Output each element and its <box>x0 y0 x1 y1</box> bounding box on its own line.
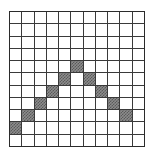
grid-cell-empty <box>132 36 144 48</box>
grid-cell-empty <box>83 12 95 24</box>
grid-cell-shaded <box>120 110 132 122</box>
grid-row <box>10 97 145 109</box>
grid-cell-empty <box>108 12 120 24</box>
grid-cell-empty <box>120 85 132 97</box>
grid-cell-empty <box>108 36 120 48</box>
grid-cell-empty <box>71 134 83 146</box>
grid-cell-empty <box>83 134 95 146</box>
grid-cell-empty <box>10 12 22 24</box>
grid-row <box>10 122 145 134</box>
grid-cell-empty <box>34 24 46 36</box>
grid-cell-empty <box>46 97 58 109</box>
grid-cell-empty <box>132 122 144 134</box>
grid-cell-empty <box>132 48 144 60</box>
grid-cell-empty <box>46 61 58 73</box>
grid-cell-empty <box>10 24 22 36</box>
grid-cell-empty <box>83 85 95 97</box>
grid-cell-empty <box>120 61 132 73</box>
grid-cell-empty <box>95 12 107 24</box>
grid-cell-empty <box>71 12 83 24</box>
grid-cell-empty <box>120 12 132 24</box>
grid-cell-empty <box>120 134 132 146</box>
grid-cell-empty <box>22 73 34 85</box>
grid-cell-empty <box>59 12 71 24</box>
grid-cell-empty <box>59 48 71 60</box>
grid-cell-empty <box>83 48 95 60</box>
grid-cell-shaded <box>83 73 95 85</box>
grid-cell-empty <box>120 73 132 85</box>
grid-cell-empty <box>34 36 46 48</box>
grid-row <box>10 85 145 97</box>
grid-row <box>10 61 145 73</box>
grid-cell-empty <box>10 73 22 85</box>
grid-cell-empty <box>46 110 58 122</box>
grid-cell-empty <box>46 48 58 60</box>
grid-cell-empty <box>95 134 107 146</box>
grid-cell-empty <box>59 110 71 122</box>
grid-cell-empty <box>95 61 107 73</box>
grid-cell-shaded <box>108 97 120 109</box>
grid-cell-empty <box>10 61 22 73</box>
grid-cell-empty <box>46 73 58 85</box>
grid-cell-empty <box>10 36 22 48</box>
grid-row <box>10 48 145 60</box>
grid-cell-empty <box>22 24 34 36</box>
grid-cell-empty <box>132 73 144 85</box>
grid-cell-empty <box>71 73 83 85</box>
grid-cell-empty <box>95 73 107 85</box>
grid-cell-empty <box>95 36 107 48</box>
grid-cell-shaded <box>95 85 107 97</box>
grid-cell-empty <box>71 24 83 36</box>
grid-cell-empty <box>34 122 46 134</box>
grid-cell-empty <box>71 110 83 122</box>
grid-row <box>10 12 145 24</box>
figure-root <box>0 0 155 160</box>
grid-cell-empty <box>120 97 132 109</box>
grid-cell-empty <box>10 97 22 109</box>
grid-table <box>9 11 145 147</box>
grid-cell-empty <box>59 85 71 97</box>
grid-wrapper <box>9 11 145 147</box>
grid-cell-empty <box>108 48 120 60</box>
grid-cell-empty <box>108 85 120 97</box>
grid-cell-empty <box>46 12 58 24</box>
grid-row <box>10 24 145 36</box>
grid-cell-empty <box>71 36 83 48</box>
grid-cell-empty <box>59 97 71 109</box>
grid-row <box>10 134 145 146</box>
grid-cell-empty <box>132 85 144 97</box>
grid-cell-empty <box>71 122 83 134</box>
grid-cell-empty <box>22 97 34 109</box>
grid-cell-empty <box>59 134 71 146</box>
grid-cell-empty <box>95 48 107 60</box>
grid-cell-empty <box>108 61 120 73</box>
grid-cell-empty <box>132 97 144 109</box>
grid-cell-empty <box>22 48 34 60</box>
grid-cell-empty <box>46 36 58 48</box>
grid-cell-empty <box>34 110 46 122</box>
grid-cell-empty <box>108 73 120 85</box>
grid-cell-empty <box>95 122 107 134</box>
grid-row <box>10 36 145 48</box>
grid-cell-empty <box>10 48 22 60</box>
grid-cell-empty <box>83 122 95 134</box>
grid-cell-empty <box>71 97 83 109</box>
grid-cell-shaded <box>71 61 83 73</box>
grid-cell-empty <box>95 110 107 122</box>
grid-cell-shaded <box>46 85 58 97</box>
grid-cell-empty <box>10 110 22 122</box>
grid-cell-empty <box>83 97 95 109</box>
grid-cell-empty <box>10 85 22 97</box>
grid-cell-empty <box>95 97 107 109</box>
grid-cell-empty <box>22 36 34 48</box>
grid-cell-empty <box>22 122 34 134</box>
grid-cell-empty <box>10 134 22 146</box>
grid-cell-empty <box>132 24 144 36</box>
grid-cell-empty <box>22 134 34 146</box>
grid-body <box>10 12 145 147</box>
grid-cell-shaded <box>10 122 22 134</box>
grid-cell-empty <box>46 24 58 36</box>
grid-cell-empty <box>34 134 46 146</box>
grid-cell-empty <box>132 61 144 73</box>
grid-cell-empty <box>71 85 83 97</box>
